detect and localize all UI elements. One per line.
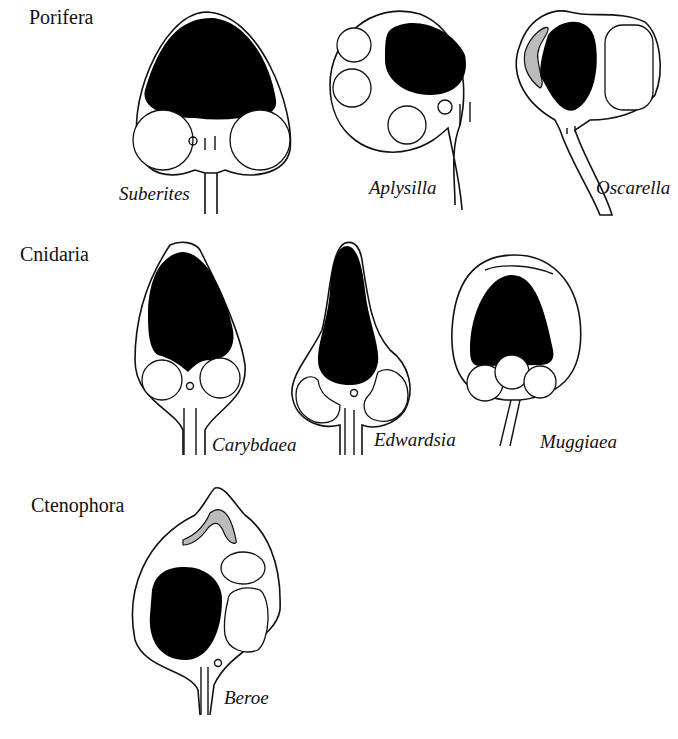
species-label-carybdaea: Carybdaea [212,434,296,456]
species-label-suberites: Suberites [119,183,190,205]
species-label-aplysilla: Aplysilla [369,177,437,199]
species-label-edwardsia: Edwardsia [374,429,456,451]
cell-muggiaea [452,255,581,446]
sperm-cell-diagram [0,0,678,739]
species-label-oscarella: Oscarella [596,177,670,199]
cell-beroe [133,488,281,715]
cell-edwardsia [292,242,410,455]
group-label-ctenophora: Ctenophora [31,494,124,517]
species-label-beroe: Beroe [224,687,269,709]
cell-carybdaea [135,242,245,455]
species-label-muggiaea: Muggiaea [540,431,617,453]
group-label-porifera: Porifera [29,6,93,29]
group-label-cnidaria: Cnidaria [20,243,89,266]
